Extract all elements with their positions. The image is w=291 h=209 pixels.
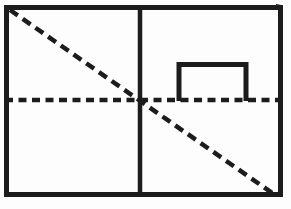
open-staple-shape [179,65,246,102]
diagram-canvas [0,0,291,209]
diagram-container [0,0,291,209]
top-right-corner-tick [276,5,281,6]
diagonal-dashed-line [10,10,275,195]
